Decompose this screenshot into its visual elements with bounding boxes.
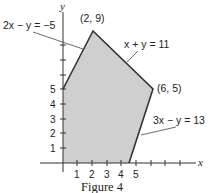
leader-line-1 — [33, 32, 83, 49]
x-tick-5: 5 — [133, 169, 139, 180]
constraint-label-2x-minus-y: 2x − y = −5 — [3, 19, 55, 31]
leader-line-3 — [141, 127, 176, 135]
y-tick-1: 1 — [50, 143, 56, 154]
y-tick-5: 5 — [50, 84, 56, 95]
leader-line-2 — [127, 51, 138, 62]
figure-4-diagram: 1 2 3 4 5 1 2 3 4 5 x y (2, 9) (6, 5) 2x… — [0, 0, 209, 193]
x-tick-4: 4 — [118, 169, 124, 180]
x-tick-3: 3 — [104, 169, 110, 180]
vertex-label-2-9: (2, 9) — [80, 12, 105, 24]
y-tick-3: 3 — [50, 114, 56, 125]
constraint-label-x-plus-y: x + y = 11 — [124, 38, 169, 50]
feasible-region — [63, 31, 153, 163]
constraint-label-3x-minus-y: 3x − y = 13 — [153, 114, 205, 126]
figure-caption: Figure 4 — [81, 180, 124, 193]
x-tick-2: 2 — [89, 169, 95, 180]
y-axis-label: y — [59, 0, 65, 12]
y-tick-2: 2 — [50, 128, 56, 139]
x-axis-label: x — [197, 156, 203, 168]
x-tick-1: 1 — [74, 169, 80, 180]
vertex-label-6-5: (6, 5) — [157, 82, 182, 94]
y-tick-4: 4 — [50, 99, 56, 110]
